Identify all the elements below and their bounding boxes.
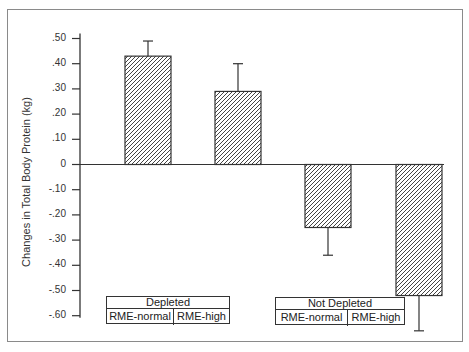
group-legend-not-depleted: Not Depleted RME-normal RME-high — [275, 297, 405, 325]
y-tick-label: -.60 — [36, 309, 66, 320]
bar — [215, 64, 261, 165]
group-title: Depleted — [107, 297, 229, 309]
subgroup-label: RME-normal — [107, 309, 174, 325]
y-tick-label: .10 — [36, 132, 66, 143]
subgroup-label: RME-high — [348, 310, 404, 326]
y-tick-label: .20 — [36, 107, 66, 118]
bar — [305, 165, 351, 256]
y-tick-label: -.10 — [36, 183, 66, 194]
subgroup-label: RME-normal — [276, 310, 348, 326]
y-tick-label: .40 — [36, 57, 66, 68]
y-tick-label: -.30 — [36, 233, 66, 244]
y-tick-label: -.50 — [36, 284, 66, 295]
y-tick-label: .30 — [36, 82, 66, 93]
y-tick-label: -.40 — [36, 258, 66, 269]
y-tick-label: 0 — [36, 158, 66, 169]
y-tick-label: .50 — [36, 32, 66, 43]
group-legend-depleted: Depleted RME-normal RME-high — [106, 296, 230, 324]
y-tick-label: -.20 — [36, 208, 66, 219]
group-title: Not Depleted — [276, 298, 404, 310]
bars — [125, 41, 442, 331]
y-axis-label: Changes in Total Body Protein (kg) — [20, 97, 32, 267]
subgroup-label: RME-high — [174, 309, 229, 325]
bar — [125, 41, 171, 164]
